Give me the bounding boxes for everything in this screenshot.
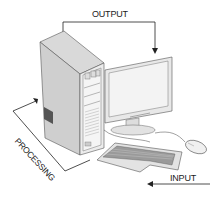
input-label: INPUT: [170, 173, 196, 183]
mouse: [184, 138, 209, 157]
output-label: OUTPUT: [92, 9, 128, 19]
keyboard: [97, 143, 182, 172]
monitor: [105, 57, 172, 135]
ipo-diagram: OUTPUT PROCESSING INPUT: [0, 0, 222, 198]
system-unit: [40, 31, 104, 155]
